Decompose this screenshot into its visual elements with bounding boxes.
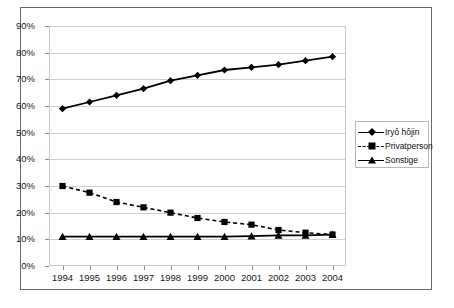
legend-item-0[interactable]: Iryô hôjin xyxy=(358,125,428,139)
x-tick-mark xyxy=(144,266,145,270)
data-point-marker xyxy=(113,199,119,205)
x-tick-mark xyxy=(279,266,280,270)
data-point-marker xyxy=(275,61,282,68)
x-tick-mark xyxy=(252,266,253,270)
x-tick-mark xyxy=(306,266,307,270)
legend-item-1[interactable]: Privatperson xyxy=(358,139,428,153)
data-point-marker xyxy=(140,85,147,92)
x-tick-mark xyxy=(198,266,199,270)
data-point-marker xyxy=(59,183,65,189)
data-point-marker xyxy=(86,190,92,196)
legend-label-2: Sonstige xyxy=(385,155,418,165)
legend-marker-diamond-icon xyxy=(358,126,384,138)
data-point-marker xyxy=(194,72,201,79)
data-point-marker xyxy=(167,210,173,216)
x-tick-mark xyxy=(333,266,334,270)
data-point-marker xyxy=(113,92,120,99)
data-point-marker xyxy=(221,66,228,73)
legend-marker-triangle-icon xyxy=(358,154,384,166)
x-axis-labels: 1994199519961997199819992000200120022003… xyxy=(0,268,454,288)
series-line xyxy=(63,186,333,235)
legend-item-2[interactable]: Sonstige xyxy=(358,153,428,167)
series-1 xyxy=(59,53,336,112)
legend-label-1: Privatperson xyxy=(385,141,433,151)
x-tick-mark xyxy=(63,266,64,270)
data-point-marker xyxy=(329,53,336,60)
data-point-marker xyxy=(194,215,200,221)
chart-legend: Iryô hôjin Privatperson Sonstige xyxy=(355,121,429,168)
triangle-icon xyxy=(368,156,376,164)
x-tick-mark xyxy=(117,266,118,270)
legend-label-0: Iryô hôjin xyxy=(385,127,420,137)
series-2 xyxy=(59,183,335,238)
data-point-marker xyxy=(86,98,93,105)
data-point-marker xyxy=(248,64,255,71)
data-point-marker xyxy=(167,77,174,84)
legend-marker-square-icon xyxy=(358,140,384,152)
x-tick-label: 2004 xyxy=(317,272,349,283)
x-tick-mark xyxy=(90,266,91,270)
series-line xyxy=(63,57,333,109)
data-point-marker xyxy=(248,222,254,228)
data-point-marker xyxy=(302,57,309,64)
data-point-marker xyxy=(221,219,227,225)
chart-figure: 0%10%20%30%40%50%60%70%80%90% 1994199519… xyxy=(0,0,454,308)
series-3 xyxy=(59,231,337,241)
data-point-marker xyxy=(59,105,66,112)
square-icon xyxy=(368,142,376,150)
x-tick-mark xyxy=(171,266,172,270)
x-tick-mark xyxy=(225,266,226,270)
data-point-marker xyxy=(140,204,146,210)
diamond-icon xyxy=(368,128,376,136)
